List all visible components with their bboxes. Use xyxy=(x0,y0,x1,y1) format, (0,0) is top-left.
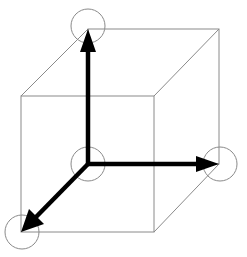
cube-edge-bottom-right xyxy=(154,164,219,232)
cube-edge-top-right xyxy=(154,29,219,96)
cube-diagram xyxy=(0,0,247,257)
down-left-arrow xyxy=(21,164,88,232)
down-left-arrow-shaft xyxy=(36,164,88,217)
right-arrow-head xyxy=(196,156,219,172)
cube-edge-top-left xyxy=(21,29,88,96)
up-arrow-head xyxy=(80,29,96,52)
